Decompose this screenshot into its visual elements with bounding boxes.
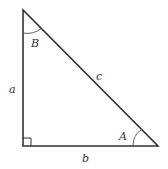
angle-b-arc (23, 28, 42, 33)
angle-a-arc (133, 130, 141, 146)
side-b-label: b (82, 152, 89, 165)
triangle-outline (23, 10, 158, 146)
right-triangle-diagram: B A a b c (0, 0, 168, 169)
right-angle-marker (23, 138, 31, 146)
side-a-label: a (9, 83, 16, 96)
angle-b-label: B (30, 37, 39, 50)
side-c-label: c (96, 70, 102, 83)
angle-a-label: A (118, 130, 127, 143)
